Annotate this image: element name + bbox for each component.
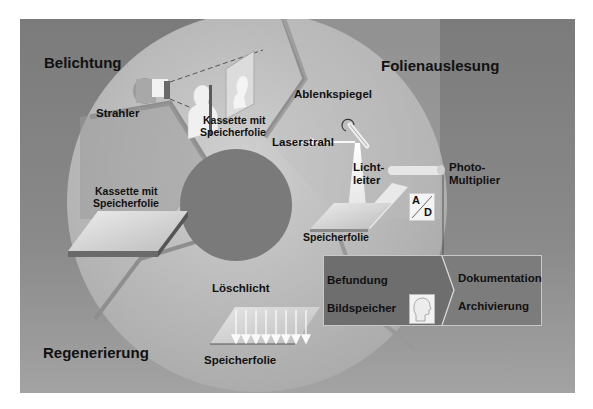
label-laserstrahl: Laserstrahl [272, 136, 334, 148]
label-strahler: Strahler [96, 107, 139, 119]
phase-belichtung: Belichtung [44, 55, 122, 71]
label-speicherfolie-erase: Speicherfolie [204, 354, 276, 366]
label-befundung: Befundung [327, 274, 388, 286]
label-cassette-top-2: Speicherfolie [200, 127, 266, 138]
label-lichtleiter-1: Licht- [353, 161, 384, 173]
ad-converter-icon: A D [409, 193, 435, 221]
ad-label-d: D [424, 206, 432, 218]
ad-label-a: A [412, 194, 420, 206]
label-cassette-left-1: Kassette mit [95, 186, 157, 197]
label-ablenkspiegel: Ablenkspiegel [294, 88, 372, 100]
phase-folienauslesung: Folienauslesung [381, 58, 499, 74]
phase-regenerierung: Regenerierung [43, 345, 149, 361]
label-loeschlicht: Löschlicht [212, 282, 270, 294]
label-bildspeicher: Bildspeicher [327, 302, 396, 314]
label-dokumentation: Dokumentation [458, 272, 542, 284]
label-cassette-top-1: Kassette mit [203, 115, 265, 126]
label-speicherfolie-readout: Speicherfolie [303, 232, 369, 243]
diagram-frame: Belichtung Folienauslesung Regenerierung… [20, 19, 575, 393]
label-cassette-left-2: Speicherfolie [93, 198, 159, 209]
center-hub [180, 149, 292, 261]
label-lichtleiter-2: leiter [353, 174, 381, 186]
label-photo-1: Photo- [449, 161, 485, 173]
head-profile-icon [409, 294, 435, 324]
light-guide-rod [388, 165, 445, 175]
label-archivierung: Archivierung [458, 300, 529, 312]
label-photo-2: Multiplier [449, 174, 500, 186]
